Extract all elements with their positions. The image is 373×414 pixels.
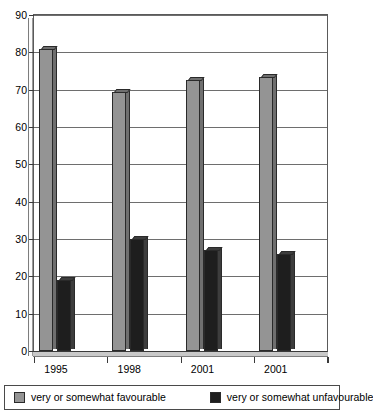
legend-item-favourable: very or somewhat favourable (14, 392, 166, 403)
bar-top-face (278, 251, 295, 255)
legend-swatch-favourable (14, 392, 25, 403)
bar-top-face (40, 46, 57, 50)
x-axis-tick (328, 357, 329, 363)
bar-favourable (259, 77, 273, 351)
x-axis-tick (254, 357, 255, 363)
chart-legend: very or somewhat favourable very or some… (4, 385, 340, 410)
bar-side-face (71, 278, 75, 349)
bar-group (107, 15, 180, 351)
y-axis-tick-label: 30 (15, 234, 27, 245)
x-axis-tick (107, 357, 108, 363)
x-axis-tick (34, 357, 35, 363)
bar-face (112, 92, 126, 351)
bar-top-face (205, 247, 222, 251)
bar-top-face (114, 89, 131, 93)
bar-face (277, 254, 291, 351)
x-axis-tick (181, 357, 182, 363)
bar-unfavourable (277, 254, 291, 351)
legend-label-favourable: very or somewhat favourable (31, 392, 166, 403)
bar-face (39, 49, 53, 351)
y-axis-tick-label: 80 (15, 47, 27, 58)
bar-group (181, 15, 254, 351)
bar-face (130, 239, 144, 351)
legend-swatch-unfavourable (210, 392, 221, 403)
y-axis-tick-label: 40 (15, 196, 27, 207)
bar-group (34, 15, 107, 351)
bar-group (254, 15, 327, 351)
bar-top-face (187, 77, 204, 81)
x-axis-tick-label: 1998 (118, 364, 141, 375)
bar-side-face (144, 237, 148, 349)
y-axis-tick-label: 20 (15, 271, 27, 282)
y-axis-tick-label: 60 (15, 122, 27, 133)
legend-item-unfavourable: very or somewhat unfavourable (210, 392, 373, 403)
bar-unfavourable (204, 250, 218, 351)
bar-face (57, 280, 71, 351)
y-axis-tick-label: 70 (15, 84, 27, 95)
bar-side-face (218, 248, 222, 349)
plot-frame: 0102030405060708090 (33, 14, 328, 352)
bar-favourable (112, 92, 126, 351)
y-axis-tick-label: 10 (15, 308, 27, 319)
x-axis-tick-label: 1995 (44, 364, 67, 375)
bar-face (186, 80, 200, 351)
plot-area: 0102030405060708090 1995199820012001 (0, 0, 344, 366)
y-axis-tick-label: 0 (21, 346, 27, 357)
x-axis-tick-label: 2001 (191, 364, 214, 375)
y-axis-tick-label: 50 (15, 159, 27, 170)
bar-face (259, 77, 273, 351)
x-axis-tick-label: 2001 (264, 364, 287, 375)
bar-face (204, 250, 218, 351)
bar-unfavourable (57, 280, 71, 351)
bar-side-face (291, 252, 295, 349)
bar-unfavourable (130, 239, 144, 351)
legend-label-unfavourable: very or somewhat unfavourable (227, 392, 373, 403)
bar-favourable (186, 80, 200, 351)
y-axis-tick-label: 90 (15, 10, 27, 21)
bar-favourable (39, 49, 53, 351)
bar-top-face (260, 74, 277, 78)
